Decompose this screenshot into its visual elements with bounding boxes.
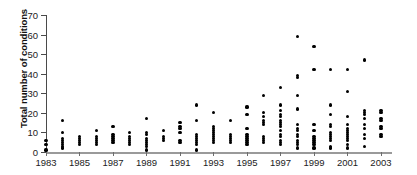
data-point (346, 146, 349, 149)
data-point (245, 105, 248, 108)
x-tick-label: 2003 (361, 157, 401, 168)
data-point (195, 148, 198, 151)
y-tick-label: 10 (8, 132, 38, 143)
y-tick-label: 70 (8, 15, 38, 26)
data-point (363, 133, 366, 136)
y-tick-label: 30 (8, 93, 38, 104)
x-tick (381, 152, 382, 156)
data-point (44, 148, 47, 151)
x-tick (314, 152, 315, 156)
x-tick (113, 152, 114, 156)
data-point (329, 103, 332, 106)
plot-area (46, 15, 391, 152)
data-point (296, 107, 299, 110)
data-point (296, 139, 299, 142)
data-point (296, 123, 299, 126)
data-point (229, 133, 232, 136)
data-point (363, 145, 366, 148)
x-tick (247, 152, 248, 156)
data-point (245, 127, 248, 130)
x-tick (180, 152, 181, 156)
data-point (245, 133, 248, 136)
x-tick (213, 152, 214, 156)
data-point (363, 123, 366, 126)
y-tick-label: 60 (8, 35, 38, 46)
data-point (44, 143, 47, 146)
x-tick (79, 152, 80, 156)
data-point (363, 58, 366, 61)
data-point (296, 94, 299, 97)
x-tick (280, 152, 281, 156)
data-point (296, 133, 299, 136)
data-point (346, 90, 349, 93)
data-point (178, 131, 181, 134)
data-point (279, 133, 282, 136)
data-point (346, 143, 349, 146)
data-point (312, 146, 315, 149)
y-tick-label: 20 (8, 113, 38, 124)
data-point (111, 125, 114, 128)
data-point (145, 137, 148, 140)
data-point (296, 146, 299, 149)
data-point (379, 125, 382, 128)
data-point (296, 127, 299, 130)
data-point (379, 133, 382, 136)
data-point (95, 129, 98, 132)
data-point (312, 135, 315, 138)
data-point (162, 135, 165, 138)
scatter-chart: Total number of conditions 0102030405060… (0, 0, 417, 175)
data-point (296, 35, 299, 38)
data-point (279, 103, 282, 106)
data-point (178, 139, 181, 142)
y-tick-label: 50 (8, 54, 38, 65)
data-point (178, 125, 181, 128)
data-point (363, 137, 366, 140)
data-point (363, 127, 366, 130)
data-point (78, 135, 81, 138)
data-point (162, 129, 165, 132)
data-point (312, 123, 315, 126)
data-point (95, 135, 98, 138)
data-point (145, 148, 148, 151)
data-point (312, 45, 315, 48)
data-point (312, 129, 315, 132)
data-point (279, 86, 282, 89)
data-point (111, 133, 114, 136)
x-axis-line (46, 152, 392, 154)
data-point (379, 117, 382, 120)
data-point (44, 139, 47, 142)
x-tick (146, 152, 147, 156)
data-point (178, 121, 181, 124)
y-tick-label: 40 (8, 74, 38, 85)
data-point (279, 139, 282, 142)
x-tick (347, 152, 348, 156)
x-tick (46, 152, 47, 156)
data-point (195, 103, 198, 106)
